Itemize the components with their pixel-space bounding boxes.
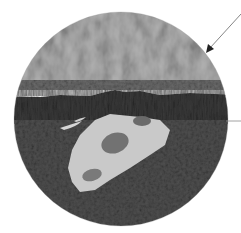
top-layer-arrow: [206, 14, 241, 53]
cross-section-circle: [0, 0, 241, 233]
cross-section-diagram: [0, 0, 241, 233]
diagram-canvas: [0, 0, 241, 233]
skull-cavity-top: [133, 116, 151, 126]
